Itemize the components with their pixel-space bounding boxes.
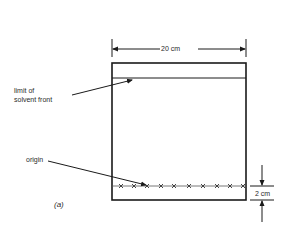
- solvent-front-label-line2: solvent front: [14, 95, 52, 104]
- width-label: 20 cm: [161, 44, 180, 53]
- solvent-front-label-line1: limit of: [14, 86, 34, 95]
- origin-arrow: [48, 161, 146, 185]
- origin-label: origin: [26, 155, 43, 164]
- solvent-front-arrow: [72, 80, 132, 95]
- origin-height-label: 2 cm: [255, 189, 270, 198]
- panel-label: (a): [54, 200, 64, 209]
- tlc-plate: [112, 63, 246, 200]
- chromatography-plate-diagram: [0, 0, 287, 237]
